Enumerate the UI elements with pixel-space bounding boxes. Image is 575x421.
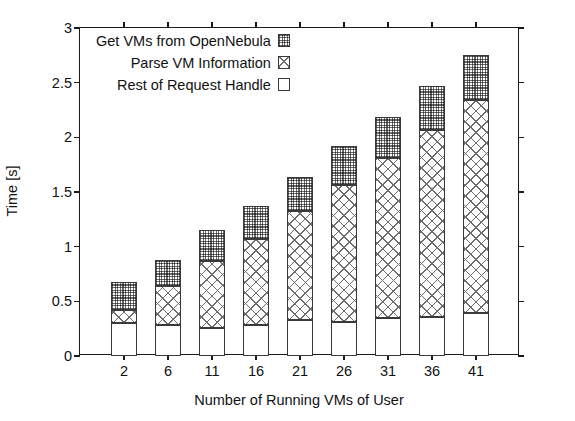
y-axis-tick [518, 355, 524, 356]
bar-stack [463, 28, 489, 356]
x-axis-tick-label: 2 [120, 363, 128, 379]
legend-item-label: Get VMs from OpenNebula [96, 33, 271, 49]
y-axis-tick [518, 301, 524, 302]
y-axis-tick-label: 2 [64, 129, 72, 145]
x-axis-title: Number of Running VMs of User [194, 392, 404, 408]
bar-stack [419, 28, 445, 356]
x-axis-tick-label: 16 [248, 363, 264, 379]
y-axis-tick-label: 2.5 [52, 75, 72, 91]
x-axis-tick-label: 26 [336, 363, 352, 379]
bar-segment [155, 286, 181, 325]
bar-segment [419, 86, 445, 130]
legend-item: Parse VM Information [96, 53, 290, 72]
y-axis-tick [74, 301, 80, 302]
y-axis-title: Time [s] [4, 165, 20, 216]
bar-stack [375, 28, 401, 356]
bar-stack [331, 28, 357, 356]
y-axis-tick [74, 191, 80, 192]
bar-segment [463, 55, 489, 100]
y-axis-tick [74, 27, 80, 28]
legend-item: Rest of Request Handle [96, 75, 290, 94]
bar-segment [243, 239, 269, 325]
legend-swatch-icon [278, 34, 290, 47]
y-axis-tick-label: 1 [64, 239, 72, 255]
bar-segment [155, 325, 181, 356]
legend-item-label: Rest of Request Handle [117, 77, 271, 93]
bar-segment [419, 317, 445, 356]
y-axis-tick [74, 137, 80, 138]
bar-segment [331, 185, 357, 322]
legend-swatch-icon [278, 56, 290, 69]
y-axis-tick-label: 1.5 [52, 184, 72, 200]
bar-segment [287, 320, 313, 356]
bar-segment [463, 100, 489, 313]
bar-segment [287, 177, 313, 211]
y-axis-tick [74, 246, 80, 247]
y-axis-tick [518, 137, 524, 138]
x-axis-tick-label: 36 [424, 363, 440, 379]
x-axis-tick-label: 31 [380, 363, 396, 379]
legend-swatch-icon [278, 78, 290, 91]
bar-segment [243, 206, 269, 239]
bar-segment [199, 328, 225, 356]
y-axis-tick-label: 3 [64, 20, 72, 36]
bar-segment [287, 211, 313, 320]
y-axis-tick [518, 82, 524, 83]
bar-segment [331, 146, 357, 185]
legend-item: Get VMs from OpenNebula [96, 31, 290, 50]
x-axis-tick-label: 6 [164, 363, 172, 379]
y-axis-tick [518, 27, 524, 28]
x-axis-tick-label: 21 [292, 363, 308, 379]
bar-segment [243, 325, 269, 356]
bar-segment [111, 282, 137, 310]
bar-segment [199, 261, 225, 328]
x-axis-tick-label: 11 [204, 363, 219, 379]
bar-segment [375, 117, 401, 159]
chart-figure: Time [s] Number of Running VMs of User 0… [0, 0, 575, 421]
bar-segment [463, 313, 489, 356]
bar-segment [155, 260, 181, 286]
y-axis-tick [518, 191, 524, 192]
bar-segment [111, 310, 137, 323]
legend-item-label: Parse VM Information [131, 55, 271, 71]
bar-segment [111, 323, 137, 356]
bar-stack [287, 28, 313, 356]
y-axis-tick [518, 246, 524, 247]
bar-segment [419, 130, 445, 317]
y-axis-tick [74, 82, 80, 83]
y-axis-tick-label: 0 [64, 348, 72, 364]
y-axis-tick-label: 0.5 [52, 293, 72, 309]
bar-segment [331, 322, 357, 356]
bar-segment [375, 158, 401, 318]
bar-segment [199, 230, 225, 261]
bar-segment [375, 318, 401, 356]
y-axis-tick [74, 355, 80, 356]
chart-legend: Get VMs from OpenNebulaParse VM Informat… [96, 31, 290, 94]
x-axis-tick-label: 41 [468, 363, 484, 379]
